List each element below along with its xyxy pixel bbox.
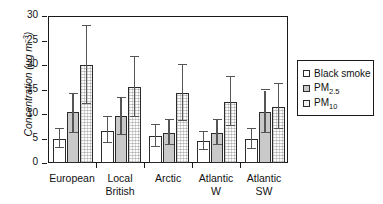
error-bar [80, 16, 93, 163]
error-bar-cap-upper [213, 119, 222, 120]
error-bar [67, 16, 80, 163]
error-bar [245, 16, 258, 163]
error-bar-stem [264, 91, 265, 133]
bar-item[interactable] [80, 16, 93, 163]
legend-item-label-base: PM [314, 82, 329, 93]
error-bar-cap-lower [55, 147, 64, 148]
error-bar-cap-lower [178, 120, 187, 121]
error-bar-stem [155, 125, 156, 147]
legend-item[interactable]: Black smoke [303, 66, 373, 81]
x-axis-label-line: British [86, 185, 154, 198]
bar-group [240, 16, 288, 163]
error-bar-cap-upper [274, 83, 283, 84]
bar-item[interactable] [128, 16, 141, 163]
bar-group [48, 16, 96, 163]
y-axis-tick-mark [42, 41, 47, 42]
legend-item-label: Black smoke [314, 68, 371, 79]
error-bar-stem [216, 120, 217, 145]
error-bar [272, 16, 285, 163]
y-axis-tick-mark [42, 114, 47, 115]
error-bar [224, 16, 237, 163]
bars-layer [48, 16, 288, 163]
x-axis-label-line: Atlantic [230, 172, 298, 185]
y-axis-tick-label: 15 [12, 83, 38, 94]
error-bar [176, 16, 189, 163]
bar-item[interactable] [259, 16, 272, 163]
legend-item[interactable]: PM10 [303, 96, 373, 111]
y-axis-tick-mark [42, 163, 47, 164]
bar-group [144, 16, 192, 163]
error-bar-cap-upper [165, 119, 174, 120]
error-bar-stem [134, 57, 135, 118]
bar-item[interactable] [224, 16, 237, 163]
error-bar-cap-lower [69, 132, 78, 133]
legend-swatch-icon [303, 100, 310, 107]
bar-item[interactable] [67, 16, 80, 163]
bar-item[interactable] [197, 16, 210, 163]
bar-item[interactable] [149, 16, 162, 163]
bar-item[interactable] [211, 16, 224, 163]
error-bar-cap-upper [247, 128, 256, 129]
error-bar-cap-upper [55, 128, 64, 129]
error-bar [163, 16, 176, 163]
x-axis-label: AtlanticSW [230, 172, 298, 197]
error-bar-cap-upper [226, 76, 235, 77]
error-bar-stem [72, 94, 73, 132]
error-bar-cap-upper [103, 116, 112, 117]
error-bar-stem [230, 77, 231, 126]
y-axis-tick-mark [42, 90, 47, 91]
error-bar [101, 16, 114, 163]
error-bar-cap-upper [261, 89, 270, 90]
legend-swatch-icon [303, 85, 310, 92]
legend-item-label-base: Black smoke [314, 68, 371, 79]
x-axis-group-separator [192, 163, 193, 168]
legend-item-label: PM10 [314, 97, 337, 111]
legend-item[interactable]: PM2.5 [303, 81, 373, 96]
error-bar-cap-lower [165, 144, 174, 145]
legend: Black smokePM2.5PM10 [297, 60, 374, 116]
y-axis-tick-label: 5 [12, 132, 38, 143]
error-bar [211, 16, 224, 163]
y-axis-tick-mark [42, 139, 47, 140]
x-axis-group-separator [144, 163, 145, 168]
error-bar-cap-lower [274, 128, 283, 129]
error-bar-cap-lower [82, 103, 91, 104]
chart-figure: Concentration (µg m−3) 051015202530 Euro… [0, 0, 383, 204]
error-bar-stem [168, 120, 169, 145]
y-axis-tick-mark [42, 65, 47, 66]
bar-item[interactable] [101, 16, 114, 163]
bar-item[interactable] [245, 16, 258, 163]
error-bar-stem [251, 129, 252, 149]
error-bar-cap-upper [178, 64, 187, 65]
error-bar-stem [203, 132, 204, 150]
error-bar-cap-lower [226, 125, 235, 126]
bar-item[interactable] [176, 16, 189, 163]
legend-item-label-subscript: 2.5 [329, 87, 339, 96]
error-bar-cap-upper [82, 25, 91, 26]
error-bar-stem [182, 65, 183, 121]
error-bar-cap-upper [69, 93, 78, 94]
y-axis-tick-label: 10 [12, 107, 38, 118]
error-bar [115, 16, 128, 163]
y-axis-tick-label: 25 [12, 34, 38, 45]
error-bar-stem [107, 117, 108, 143]
bar-item[interactable] [163, 16, 176, 163]
bar-item[interactable] [272, 16, 285, 163]
bar-item[interactable] [115, 16, 128, 163]
error-bar-cap-upper [117, 97, 126, 98]
error-bar-stem [59, 129, 60, 149]
error-bar-cap-lower [151, 146, 160, 147]
error-bar-cap-upper [199, 131, 208, 132]
error-bar [259, 16, 272, 163]
error-bar-cap-lower [130, 116, 139, 117]
error-bar-cap-lower [103, 142, 112, 143]
legend-item-label-base: PM [314, 97, 329, 108]
y-axis-tick-label: 30 [12, 9, 38, 20]
error-bar [197, 16, 210, 163]
bar-item[interactable] [53, 16, 66, 163]
error-bar-stem [86, 26, 87, 104]
y-axis-tick-label: 0 [12, 156, 38, 167]
error-bar-cap-lower [199, 149, 208, 150]
error-bar-cap-upper [151, 124, 160, 125]
error-bar-cap-upper [130, 56, 139, 57]
